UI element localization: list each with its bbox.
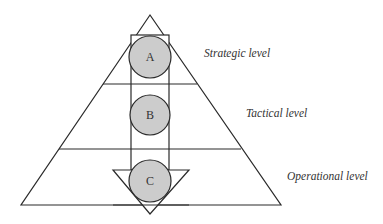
tactical-level-label: Tactical level xyxy=(246,108,307,120)
node-a-label: A xyxy=(146,50,155,64)
operational-level-label: Operational level xyxy=(287,171,368,183)
node-c-label: C xyxy=(146,174,154,188)
node-a: A xyxy=(129,36,171,78)
pyramid-diagram: A B C xyxy=(0,0,383,224)
node-b: B xyxy=(130,95,170,135)
node-c: C xyxy=(129,160,171,202)
node-b-label: B xyxy=(146,108,154,122)
strategic-level-label: Strategic level xyxy=(204,48,270,60)
